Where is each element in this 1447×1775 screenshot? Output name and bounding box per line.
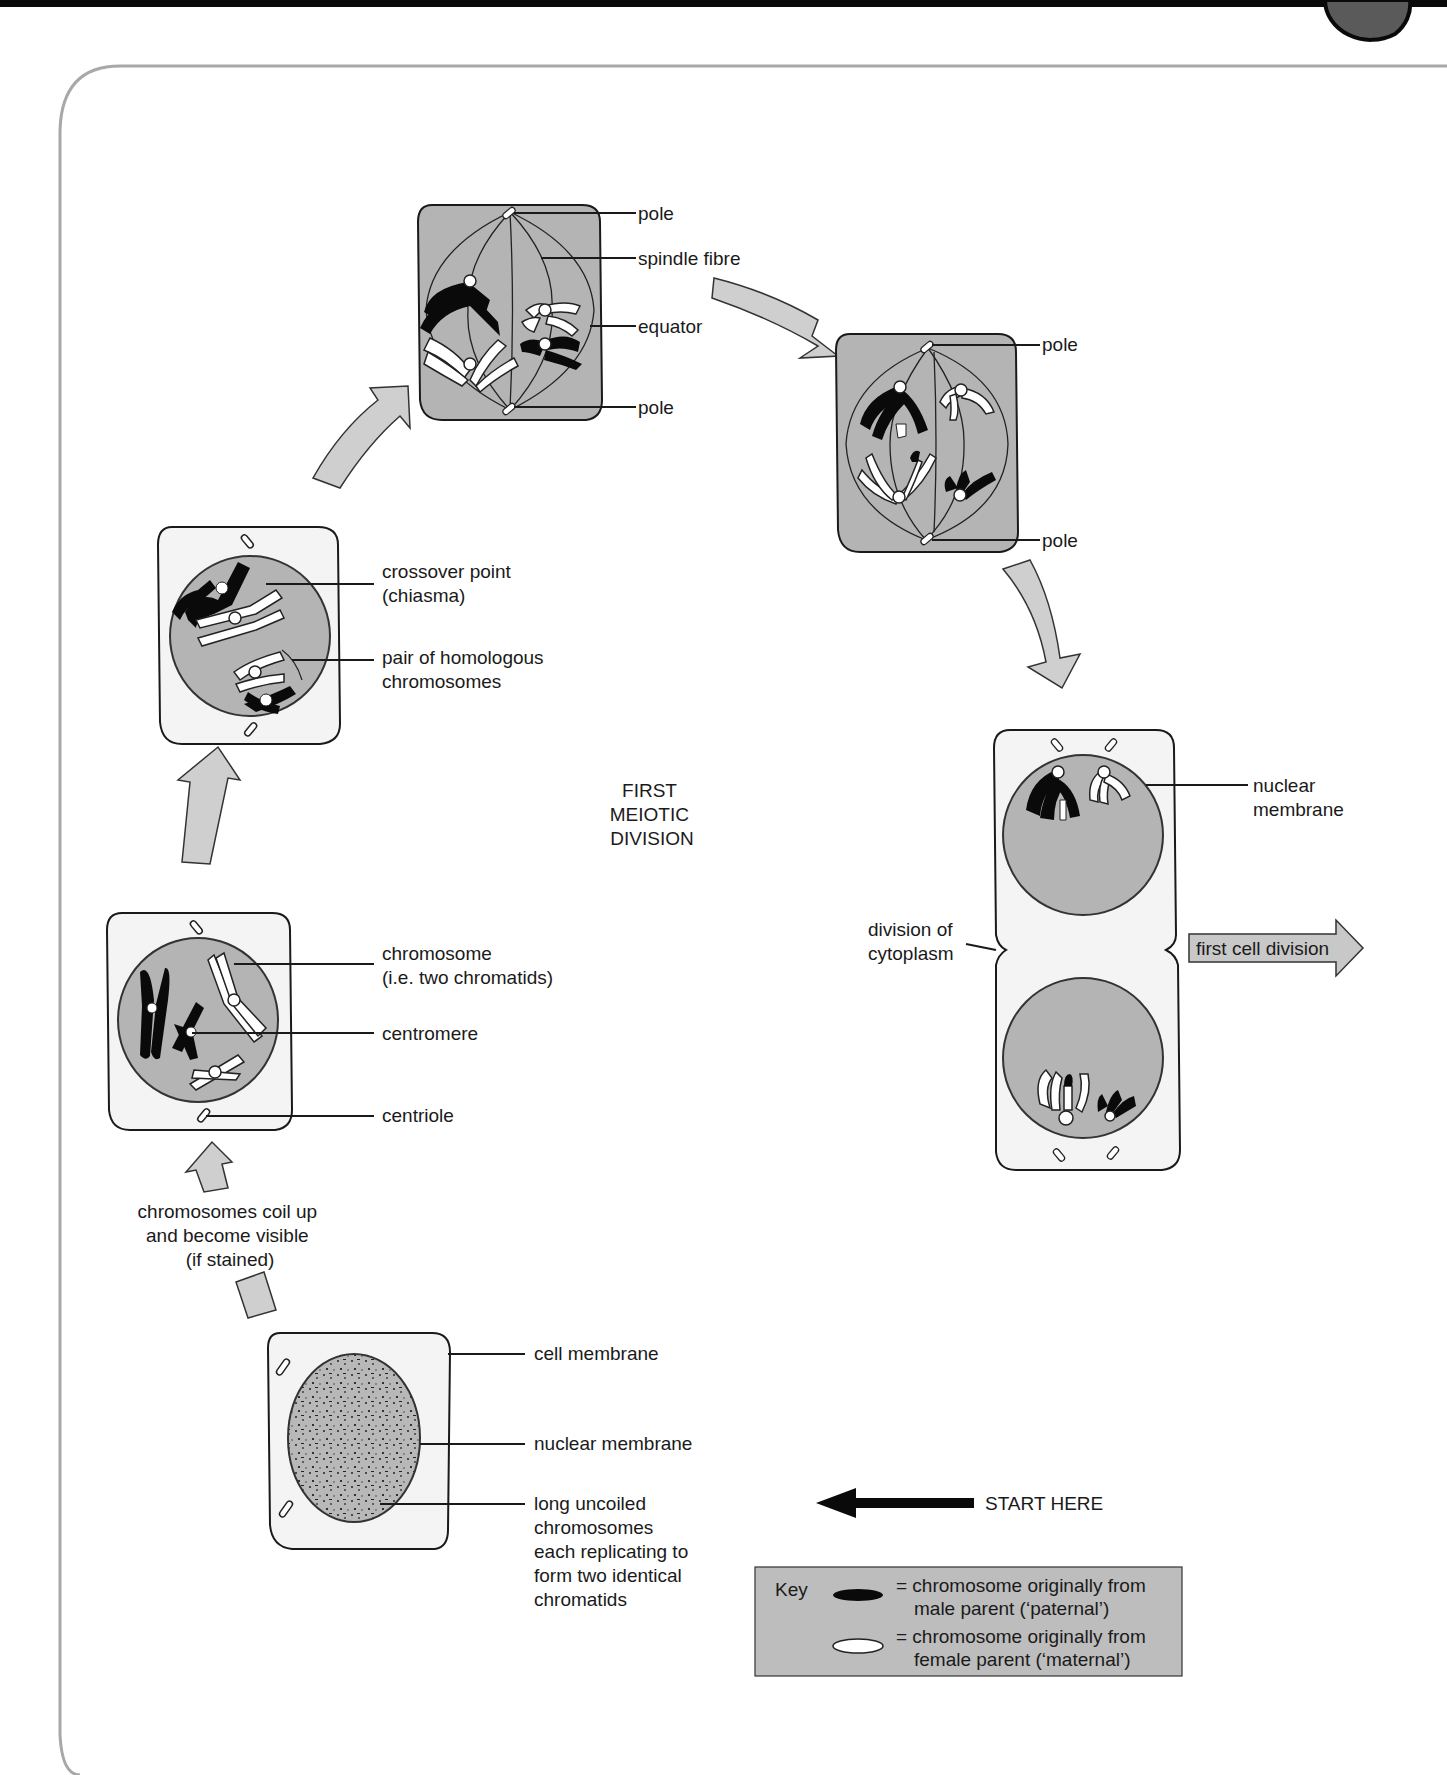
maternal-symbol-icon [833,1639,883,1653]
arrow-down-icon [1003,560,1080,688]
label-spindle-fibre: spindle fibre [638,248,740,269]
nucleus-bottom [1003,978,1163,1138]
arrow-curved-icon [712,278,838,358]
meiosis-diagram: cell membrane nuclear membrane long unco… [0,0,1447,1775]
arrow-up-icon [178,747,240,864]
key-title: Key [775,1579,808,1600]
stage-prophase-early: chromosome (i.e. two chromatids) centrom… [107,913,553,1130]
nucleus-top [1003,755,1163,915]
nucleus [288,1354,420,1522]
page-tab-circle [1325,0,1410,40]
label-division-of-cytoplasm: division of cytoplasm [868,919,958,964]
stage-interphase: cell membrane nuclear membrane long unco… [268,1333,694,1610]
stage-anaphase: pole pole [836,334,1078,552]
start-here: START HERE [816,1488,1103,1518]
label-coil-up: chromosomes coil up and become visible (… [138,1201,323,1270]
diagram-title: FIRST MEIOTIC DIVISION [610,780,694,849]
label-first-cell-division: first cell division [1196,938,1329,959]
label-uncoiled-chromosomes: long uncoiled chromosomes each replicati… [534,1493,694,1610]
label-nuclear-membrane: nuclear membrane [1253,775,1344,820]
label-chromosome: chromosome (i.e. two chromatids) [382,943,553,988]
label-cell-membrane: cell membrane [534,1343,659,1364]
label-pole-bottom: pole [1042,530,1078,551]
label-pole-top: pole [1042,334,1078,355]
stage-metaphase: pole spindle fibre equator pole [418,203,740,420]
label-nuclear-membrane: nuclear membrane [534,1433,692,1454]
arrow-left-icon [816,1488,974,1518]
stage-telophase: nuclear membrane division of cytoplasm f… [868,730,1363,1170]
arrow-up-icon [186,1142,232,1192]
label-pole-bottom: pole [638,397,674,418]
label-centriole: centriole [382,1105,454,1126]
label-homologous-pair: pair of homologous chromosomes [382,647,549,692]
label-start-here: START HERE [985,1493,1103,1514]
label-centromere: centromere [382,1023,478,1044]
paternal-symbol-icon [833,1589,883,1601]
cell-membrane [836,334,1018,552]
key-legend: Key = chromosome originally from male pa… [755,1567,1182,1676]
label-crossover-point: crossover point (chiasma) [382,561,516,606]
label-equator: equator [638,316,703,337]
arrow-curved-icon [313,386,410,488]
top-bar [0,0,1447,7]
arrow-up-icon [236,1272,276,1318]
stage-prophase-late: crossover point (chiasma) pair of homolo… [158,527,549,744]
nucleus [170,556,330,716]
label-pole-top: pole [638,203,674,224]
